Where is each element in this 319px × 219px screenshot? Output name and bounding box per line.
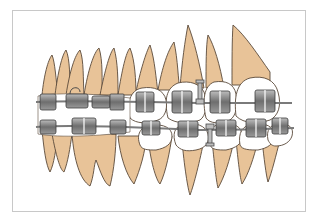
upper-teeth bbox=[42, 25, 270, 95]
braces-illustration bbox=[0, 0, 319, 219]
